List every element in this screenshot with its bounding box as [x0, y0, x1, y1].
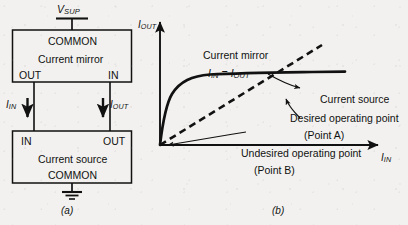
- current-iin-label: IIN: [6, 100, 16, 110]
- leader-current-mirror: [268, 74, 300, 88]
- mirror-title: Current mirror: [38, 54, 103, 65]
- graph-plot: [160, 22, 378, 145]
- source-in-terminal: IN: [21, 136, 32, 147]
- source-out-terminal: OUT: [103, 136, 125, 147]
- annotation-point-b-sub: (Point B): [254, 165, 295, 176]
- figure-container: VSUP COMMON Current mirror OUT IN IIN IO…: [0, 0, 408, 225]
- supply-label: VSUP: [57, 4, 80, 16]
- mirror-common-label: COMMON: [48, 36, 97, 47]
- caption-b: (b): [272, 206, 284, 216]
- annotation-current-mirror: Current mirror: [203, 50, 268, 61]
- y-axis-label: IOUT: [138, 20, 156, 30]
- mirror-out-terminal: OUT: [19, 70, 41, 81]
- x-axis-label: IIN: [381, 153, 391, 163]
- source-title: Current source: [38, 154, 107, 165]
- leader-point-b: [168, 132, 246, 145]
- annotation-point-b: Undesired operating point: [241, 148, 361, 159]
- annotation-current-source: Current source: [320, 94, 389, 105]
- annotation-point-a-sub: (Point A): [304, 130, 344, 141]
- current-iout-label: IOUT: [110, 100, 128, 110]
- ground-icon: [62, 192, 82, 199]
- caption-a: (a): [61, 206, 73, 216]
- annotation-unity-equation: IIN = IOUT: [208, 68, 250, 80]
- source-common-label: COMMON: [48, 170, 97, 181]
- mirror-in-terminal: IN: [108, 70, 119, 81]
- annotation-point-a: Desired operating point: [290, 113, 399, 124]
